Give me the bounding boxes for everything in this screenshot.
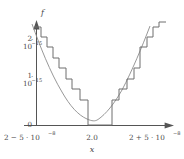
floating-point-staircase	[34, 22, 166, 125]
x-tick-left-label: 2 − 5 · 10	[4, 133, 40, 142]
x-axis-arrowhead	[165, 122, 174, 128]
y-tick-1e-15-exponent: −15	[32, 77, 43, 83]
x-tick-left-exponent: −8	[48, 130, 56, 136]
x-tick-right-exponent: −8	[173, 130, 181, 136]
x-axis-label: x	[90, 145, 95, 154]
plot-svg: f x 2 · 10 −15 1 · 10 −15 0 2 − 5 · 10 −…	[0, 0, 184, 159]
x-tick-left: 2 − 5 · 10 −8	[4, 130, 56, 142]
y-tick-2e-15-exponent: −15	[32, 40, 43, 46]
exact-parabola-curve	[32, 24, 150, 121]
figure-container: f x 2 · 10 −15 1 · 10 −15 0 2 − 5 · 10 −…	[0, 0, 184, 159]
y-tick-1e-15: 1 · 10 −15	[23, 71, 42, 89]
y-tick-2e-15: 2 · 10 −15	[23, 34, 42, 52]
x-tick-right: 2 + 5 · 10 −8	[129, 130, 181, 142]
x-tick-right-label: 2 + 5 · 10	[129, 133, 165, 142]
x-tick-center-label: 2.0	[86, 133, 98, 142]
origin-tick-label: 0	[27, 120, 32, 129]
y-axis-arrowhead	[33, 20, 39, 30]
y-axis-label: f	[40, 8, 46, 17]
